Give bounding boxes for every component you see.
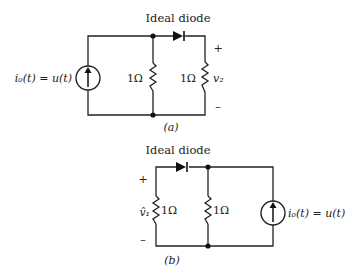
circuit-a: Ideal diode i₀(t) = u(t) 1Ω 1Ω v₂ + – (a… <box>15 11 224 134</box>
circuit-a-source-label: i₀(t) = u(t) <box>15 72 72 85</box>
circuit-a-diode-label: Ideal diode <box>145 11 210 25</box>
circuit-b-node-bottom <box>205 243 210 248</box>
circuit-a-resistor2-icon <box>202 62 208 92</box>
circuit-b-diode-label: Ideal diode <box>145 143 210 157</box>
circuit-a-resistor1-icon <box>150 63 156 91</box>
circuit-b-resistor2-icon <box>205 196 211 224</box>
circuit-b-current-source-icon <box>261 201 285 225</box>
circuit-b-plus-sign: + <box>138 173 147 186</box>
circuit-b-resistor1-icon <box>153 196 159 224</box>
circuit-b-caption: (b) <box>164 254 180 267</box>
circuit-diagrams: Ideal diode i₀(t) = u(t) 1Ω 1Ω v₂ + – (a… <box>0 0 362 276</box>
circuit-a-current-source-icon <box>76 66 100 90</box>
circuit-b: Ideal diode i₀(t) = u(t) 1Ω 1Ω v̂₁ + – (… <box>138 143 345 267</box>
circuit-b-resistor1-label: 1Ω <box>161 204 177 217</box>
circuit-a-caption: (a) <box>163 121 178 134</box>
circuit-b-diode-icon <box>176 162 187 172</box>
circuit-a-resistor1-label: 1Ω <box>127 72 143 85</box>
circuit-a-voltage-label: v₂ <box>213 72 224 85</box>
circuit-a-minus-sign: – <box>215 100 221 113</box>
circuit-a-plus-sign: + <box>213 42 222 55</box>
circuit-a-node-bottom <box>150 112 155 117</box>
circuit-a-diode-icon <box>173 31 187 41</box>
circuit-a-resistor2-label: 1Ω <box>180 72 196 85</box>
circuit-b-source-label: i₀(t) = u(t) <box>288 207 345 220</box>
circuit-b-voltage-label: v̂₁ <box>139 206 150 219</box>
circuit-b-minus-sign: – <box>140 233 146 246</box>
circuit-a-node-top <box>150 33 155 38</box>
circuit-b-node-top <box>205 164 210 169</box>
circuit-b-resistor2-label: 1Ω <box>213 204 229 217</box>
